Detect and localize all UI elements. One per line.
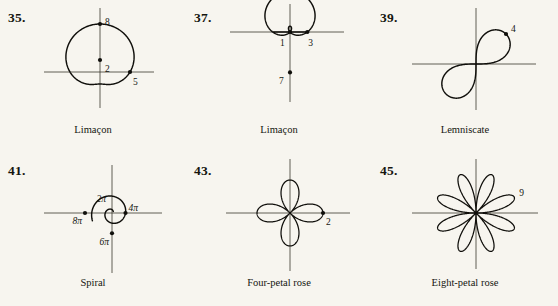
value-label: 7 bbox=[279, 76, 284, 86]
figure-caption: Limaçon bbox=[186, 124, 372, 135]
figure-cell-43: 43.2Four-petal rose bbox=[186, 153, 372, 306]
value-label: 4 bbox=[511, 24, 516, 34]
figure-number: 41. bbox=[8, 163, 25, 179]
figure-cell-41: 41.2π4π6π8πSpiral bbox=[0, 153, 186, 306]
polar-plot-rose-8-petal: 9 bbox=[410, 155, 550, 277]
figure-number: 39. bbox=[380, 10, 397, 26]
figure-number: 35. bbox=[8, 10, 25, 26]
figure-sheet: 35.825Limaçon37.137Limaçon39.4Lemniscate… bbox=[0, 0, 558, 306]
figure-caption: Lemniscate bbox=[372, 124, 558, 135]
polar-plot-limacon-inner-loop: 137 bbox=[224, 2, 364, 124]
value-label: 2 bbox=[326, 217, 331, 227]
figure-caption: Limaçon bbox=[0, 124, 186, 135]
value-label: 9 bbox=[519, 188, 524, 198]
value-label: 4π bbox=[129, 203, 139, 213]
value-label: 8 bbox=[105, 17, 110, 27]
value-label: 8π bbox=[72, 216, 82, 226]
figure-number: 37. bbox=[194, 10, 211, 26]
polar-plot-limacon-convex: 825 bbox=[38, 2, 178, 124]
value-label: 6π bbox=[99, 237, 109, 247]
value-label: 3 bbox=[308, 38, 313, 48]
figure-caption: Spiral bbox=[0, 277, 186, 288]
polar-plot-lemniscate: 4 bbox=[410, 2, 550, 124]
figure-number: 43. bbox=[194, 163, 211, 179]
figure-caption: Eight-petal rose bbox=[372, 277, 558, 288]
figure-cell-39: 39.4Lemniscate bbox=[372, 0, 558, 153]
value-label: 5 bbox=[133, 77, 138, 87]
figure-cell-35: 35.825Limaçon bbox=[0, 0, 186, 153]
value-label: 2π bbox=[96, 194, 106, 204]
figure-caption: Four-petal rose bbox=[186, 277, 372, 288]
polar-plot-archimedean-spiral: 2π4π6π8π bbox=[38, 155, 178, 277]
value-label: 1 bbox=[280, 38, 285, 48]
figure-number: 45. bbox=[380, 163, 397, 179]
figure-cell-37: 37.137Limaçon bbox=[186, 0, 372, 153]
figure-cell-45: 45.9Eight-petal rose bbox=[372, 153, 558, 306]
polar-plot-rose-4-petal: 2 bbox=[224, 155, 364, 277]
value-label: 2 bbox=[105, 64, 110, 74]
